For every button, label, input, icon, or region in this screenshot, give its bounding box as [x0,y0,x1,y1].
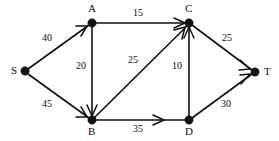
edge-line-b-c [94,26,187,118]
node-label-b: B [88,126,95,137]
node-c[interactable] [185,19,193,27]
edge-line-s-b [28,74,89,118]
node-label-a: A [88,3,96,14]
node-a[interactable] [88,19,96,27]
node-t[interactable] [251,68,259,76]
node-label-t: T [264,66,271,77]
edge-group-a-b [87,26,97,117]
node-s[interactable] [21,67,29,75]
node-b[interactable] [88,116,96,124]
node-label-c: C [185,3,192,14]
edge-weight-a-b: 20 [76,61,86,71]
edge-weight-d-c: 10 [172,61,182,71]
edge-group-d-t [192,74,252,118]
edge-weight-s-a: 40 [42,33,52,43]
edge-group-b-c [94,26,187,118]
edge-weight-b-d: 35 [133,124,143,134]
edge-weight-a-c: 15 [133,8,143,18]
edge-group-s-b [28,74,89,118]
edge-weight-s-b: 45 [42,99,52,109]
graph-canvas [0,0,279,141]
edge-weight-c-t: 25 [222,33,232,43]
edge-weight-b-c: 25 [128,55,138,65]
node-label-s: S [11,65,17,76]
network-diagram: S A B C D T 40 45 15 20 25 35 10 25 30 [0,0,279,141]
node-label-d: D [185,126,193,137]
arrowhead-c-t [239,60,250,70]
arrowhead-d-t [240,74,250,84]
edge-line-d-t [192,74,252,118]
edge-weight-d-t: 30 [221,99,231,109]
edge-group-d-c [184,26,194,117]
node-d[interactable] [185,116,193,124]
edge-group-a-c [95,18,186,28]
